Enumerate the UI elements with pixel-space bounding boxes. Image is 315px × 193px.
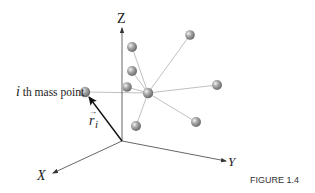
link-top-right bbox=[148, 35, 190, 93]
mass-point-ball bbox=[212, 80, 222, 90]
mass-point-ball bbox=[127, 66, 137, 76]
mass-point-ball bbox=[131, 121, 141, 131]
z-axis-label: Z bbox=[117, 11, 126, 26]
x-axis-label: X bbox=[36, 168, 46, 183]
mass-point-ball bbox=[127, 42, 137, 52]
link-right bbox=[148, 85, 217, 93]
connection-lines bbox=[85, 35, 217, 126]
vector-subscript: i bbox=[95, 118, 98, 130]
mass-points-diagram: Z Y X i th mass point → r i FIGURE 1.4 bbox=[0, 0, 315, 193]
y-axis bbox=[122, 141, 226, 161]
mass-points bbox=[80, 30, 222, 131]
mass-point-ball bbox=[122, 82, 132, 92]
mass-point-ball bbox=[185, 30, 195, 40]
link-lower bbox=[136, 93, 148, 126]
figure-caption: FIGURE 1.4 bbox=[250, 175, 299, 185]
link-to-ith-point bbox=[85, 92, 148, 93]
ith-label-text: th mass point bbox=[20, 86, 85, 99]
center-mass-point-ball bbox=[143, 88, 153, 98]
y-axis-label: Y bbox=[228, 154, 237, 169]
ith-mass-point-label: i th mass point bbox=[16, 84, 85, 99]
mass-point-ball bbox=[191, 117, 201, 127]
x-axis bbox=[53, 141, 122, 173]
coordinate-axes bbox=[53, 28, 226, 173]
link-lower-right bbox=[148, 93, 196, 122]
